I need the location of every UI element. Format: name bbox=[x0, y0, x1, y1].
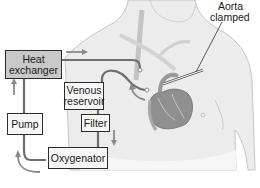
bypass-diagram: Heat exchanger Venous reservoir Filter P… bbox=[0, 0, 260, 188]
heat-exchanger-box: Heat exchanger bbox=[5, 50, 62, 79]
venous-reservoir-label-2: reservoir bbox=[64, 96, 105, 107]
aorta-clamped-annotation: Aorta clamped bbox=[210, 1, 250, 23]
heat-exchanger-label-2: exchanger bbox=[9, 65, 58, 76]
torso-illustration bbox=[0, 0, 260, 188]
pump-box: Pump bbox=[7, 113, 43, 135]
oxygenator-label: Oxygenator bbox=[51, 153, 105, 164]
heat-exchanger-label-1: Heat bbox=[22, 54, 44, 65]
oxygenator-box: Oxygenator bbox=[48, 147, 108, 169]
pump-label: Pump bbox=[11, 119, 38, 130]
filter-label: Filter bbox=[84, 118, 107, 129]
heart bbox=[149, 89, 193, 129]
filter-box: Filter bbox=[81, 114, 110, 132]
venous-reservoir-box: Venous reservoir bbox=[64, 82, 104, 110]
clamped-label: clamped bbox=[210, 12, 250, 23]
